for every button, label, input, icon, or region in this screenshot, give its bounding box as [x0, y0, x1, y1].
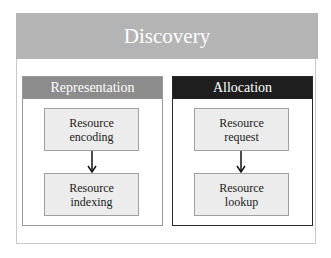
resource-indexing-node: Resource indexing [44, 173, 139, 216]
allocation-header: Allocation [173, 77, 312, 99]
resource-request-node: Resource request [194, 108, 289, 151]
representation-panel: Representation Resource encoding Resourc… [22, 76, 163, 226]
arrow-down-icon [87, 151, 97, 173]
resource-encoding-node: Resource encoding [44, 108, 139, 151]
node-label-line1: Resource [219, 181, 264, 195]
resource-lookup-node: Resource lookup [194, 173, 289, 216]
node-label-line2: lookup [225, 195, 258, 209]
representation-header: Representation [23, 77, 162, 99]
arrow-down-icon [236, 151, 246, 173]
node-label-line2: encoding [70, 130, 114, 144]
node-label-line1: Resource [219, 116, 264, 130]
node-label-line1: Resource [69, 181, 114, 195]
node-label-line1: Resource [69, 116, 114, 130]
diagram-title: Discovery [16, 13, 318, 59]
node-label-line2: indexing [71, 195, 113, 209]
node-label-line2: request [224, 130, 259, 144]
allocation-panel: Allocation Resource request Resource loo… [172, 76, 313, 226]
